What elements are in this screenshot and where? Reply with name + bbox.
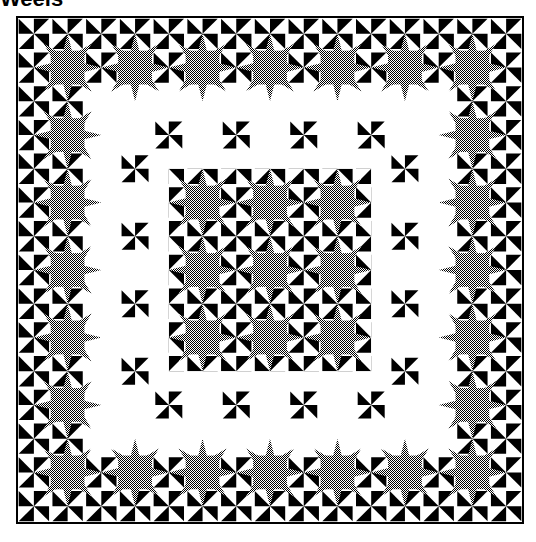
star <box>304 439 371 506</box>
star <box>236 169 303 236</box>
pinwheel-blade <box>356 506 371 521</box>
pinwheel-blade <box>506 289 521 304</box>
star <box>439 439 506 506</box>
pinwheel-blade <box>506 337 521 352</box>
pinwheel-blade <box>154 19 169 34</box>
pinwheel-blade <box>506 371 521 386</box>
pinwheel-blade <box>19 34 34 49</box>
pinwheel-blade <box>506 236 521 251</box>
pinwheel-blade <box>491 506 506 521</box>
pinwheel-blade <box>19 187 34 202</box>
pinwheel-blade <box>506 405 521 420</box>
pinwheel-blade <box>255 506 270 521</box>
pinwheel-blade <box>506 322 521 337</box>
pinwheel-blade <box>390 19 405 34</box>
pinwheel-blade <box>506 154 521 169</box>
star <box>236 304 303 371</box>
pinwheel-blade <box>356 19 371 34</box>
star <box>304 169 371 236</box>
pinwheel-blade <box>506 390 521 405</box>
pinwheel-blade <box>19 439 34 454</box>
star <box>34 371 101 438</box>
pinwheel-blade <box>337 19 352 34</box>
pinwheel-blade <box>68 19 83 34</box>
pinwheel-blade <box>19 457 34 472</box>
pinwheel-blade <box>506 19 521 34</box>
pinwheel-blade <box>506 356 521 371</box>
pinwheel-blade <box>506 491 521 506</box>
pinwheel-blade <box>221 19 236 34</box>
pinwheel-blade <box>19 322 34 337</box>
pinwheel-blade <box>506 135 521 150</box>
pinwheel-blade <box>19 506 34 521</box>
star <box>34 34 101 101</box>
star <box>169 169 236 236</box>
star <box>439 169 506 236</box>
pinwheel-blade <box>120 506 135 521</box>
pinwheel-blade <box>120 19 135 34</box>
pinwheel-blade <box>506 169 521 184</box>
pinwheel-blade <box>86 506 101 521</box>
pinwheel-blade <box>19 135 34 150</box>
quilt-pattern <box>0 0 536 542</box>
star <box>236 34 303 101</box>
pinwheel-blade <box>203 19 218 34</box>
star <box>439 371 506 438</box>
pinwheel-blade <box>472 506 487 521</box>
pinwheel-blade <box>19 236 34 251</box>
pinwheel-blade <box>19 390 34 405</box>
pinwheel-blade <box>491 19 506 34</box>
star <box>169 34 236 101</box>
star <box>169 236 236 303</box>
pinwheel-blade <box>169 19 184 34</box>
pinwheel-blade <box>506 423 521 438</box>
pinwheel-blade <box>19 356 34 371</box>
pinwheel-blade <box>19 68 34 83</box>
pinwheel-blade <box>506 187 521 202</box>
pinwheel-blade <box>19 154 34 169</box>
star <box>169 439 236 506</box>
pinwheel-blade <box>289 19 304 34</box>
pinwheel-blade <box>506 52 521 67</box>
pinwheel-blade <box>506 457 521 472</box>
star <box>304 34 371 101</box>
pinwheel-blade <box>322 19 337 34</box>
pinwheel-blade <box>19 405 34 420</box>
pinwheel-blade <box>187 506 202 521</box>
pinwheel-blade <box>101 506 116 521</box>
pinwheel-blade <box>19 120 34 135</box>
pinwheel-blade <box>423 506 438 521</box>
pinwheel-blade <box>390 506 405 521</box>
pinwheel-blade <box>52 506 67 521</box>
pinwheel-blade <box>19 101 34 116</box>
pinwheel-blade <box>371 19 386 34</box>
pinwheel-blade <box>405 19 420 34</box>
pinwheel-blade <box>19 52 34 67</box>
pinwheel-blade <box>68 506 83 521</box>
pinwheel-blade <box>19 423 34 438</box>
pinwheel-blade <box>439 506 454 521</box>
pinwheel-blade <box>86 19 101 34</box>
pinwheel-blade <box>304 506 319 521</box>
pinwheel-blade <box>506 472 521 487</box>
star <box>236 439 303 506</box>
star <box>439 34 506 101</box>
pinwheel-blade <box>221 506 236 521</box>
pinwheel-blade <box>322 506 337 521</box>
pinwheel-blade <box>19 255 34 270</box>
pinwheel-blade <box>236 19 251 34</box>
pinwheel-blade <box>19 86 34 101</box>
star <box>236 236 303 303</box>
star <box>439 101 506 168</box>
pinwheel-blade <box>457 19 472 34</box>
pinwheel-blade <box>135 19 150 34</box>
pinwheel-blade <box>506 270 521 285</box>
pinwheel-blade <box>19 371 34 386</box>
star <box>34 439 101 506</box>
pinwheel-blade <box>19 491 34 506</box>
pinwheel-blade <box>236 506 251 521</box>
pinwheel-blade <box>371 506 386 521</box>
pinwheel-blade <box>19 304 34 319</box>
pinwheel-blade <box>19 337 34 352</box>
pinwheel-blade <box>203 506 218 521</box>
